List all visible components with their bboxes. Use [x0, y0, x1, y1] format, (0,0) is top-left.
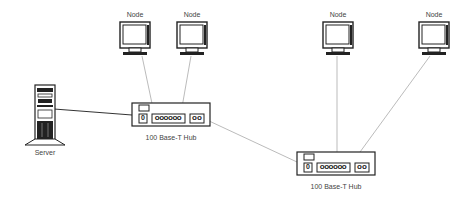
hub-label: 100 Base-T Hub	[146, 134, 197, 141]
monitor-icon	[177, 22, 207, 55]
monitor-icon	[323, 22, 353, 55]
server-label: Server	[35, 149, 56, 156]
node-label: Node	[426, 11, 443, 18]
server-icon	[25, 85, 65, 145]
hub1-ports: oooooo	[155, 113, 181, 122]
node-label: Node	[127, 11, 144, 18]
hub1-uplink-ports: oo	[192, 113, 202, 122]
hub-label: 100 Base-T Hub	[311, 183, 362, 190]
link-node4-hub2	[352, 56, 430, 163]
monitor-icon	[120, 22, 150, 55]
node-label: Node	[184, 11, 201, 18]
monitor-icon	[419, 22, 449, 55]
hub2-uplink-ports: oo	[357, 162, 367, 171]
hub2-single-port: 0	[306, 163, 310, 170]
hub2-ports: oooooo	[320, 162, 346, 171]
link-hub1-hub2	[207, 120, 297, 162]
hub1-single-port: 0	[141, 114, 145, 121]
node-label: Node	[330, 11, 347, 18]
network-diagram	[0, 0, 471, 199]
link-server-hub1	[54, 109, 132, 115]
